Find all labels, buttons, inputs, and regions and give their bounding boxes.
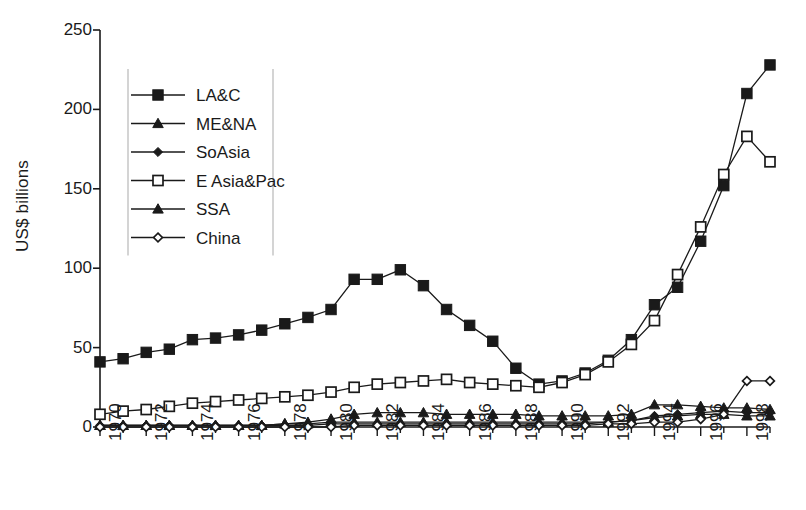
x-axis-tick-label: 1980 — [338, 403, 355, 441]
legend-item-ssa[interactable]: SSA — [131, 200, 231, 219]
legend-label: ME&NA — [196, 115, 257, 134]
x-axis-tick-label: 1984 — [430, 403, 447, 441]
legend-label: E Asia&Pac — [196, 172, 285, 191]
legend-item-e-asia-pac[interactable]: E Asia&Pac — [131, 172, 285, 191]
legend-item-china[interactable]: China — [131, 229, 241, 248]
x-axis-tick-label: 1972 — [153, 403, 170, 441]
x-axis-tick-label: 1970 — [107, 403, 124, 441]
legend-label: China — [196, 229, 241, 248]
x-axis-tick-label: 1988 — [523, 403, 540, 441]
legend-item-soasia[interactable]: SoAsia — [131, 143, 250, 162]
legend-item-la-c[interactable]: LA&C — [131, 86, 240, 105]
x-axis-tick-label: 1998 — [754, 403, 771, 441]
legend-item-me-na[interactable]: ME&NA — [131, 115, 257, 134]
x-axis-tick-label: 1978 — [292, 403, 309, 441]
legend-label: SSA — [196, 200, 231, 219]
legend-label: SoAsia — [196, 143, 250, 162]
x-axis-tick-label: 1996 — [708, 403, 725, 441]
legend-label: LA&C — [196, 86, 240, 105]
x-axis-tick-label: 1990 — [569, 403, 586, 441]
line-chart: 050100150200250 US$ billions LA&CME&NASo… — [0, 0, 806, 510]
x-axis-tick-label: 1974 — [199, 403, 216, 441]
x-axis-tick-label: 1982 — [384, 403, 401, 441]
x-axis-tick-label: 1976 — [246, 403, 263, 441]
series-la-c — [95, 60, 775, 390]
x-axis-tick-label: 1994 — [661, 403, 678, 441]
x-axis-tick-label: 1992 — [615, 403, 632, 441]
x-axis-tick-label: 1986 — [477, 403, 494, 441]
